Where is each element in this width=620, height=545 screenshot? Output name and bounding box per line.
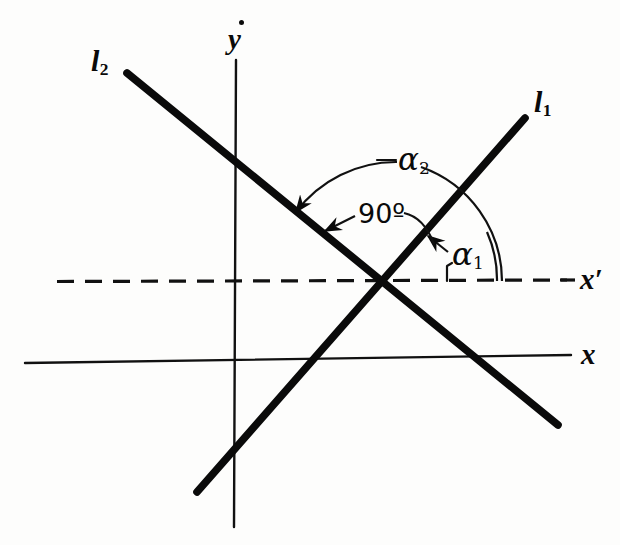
label-line-l2-sub: 2 — [100, 59, 109, 79]
label-y-axis-text: y — [228, 23, 241, 55]
label-alpha1: α1 — [452, 239, 484, 272]
label-line-l2-base: l — [91, 44, 99, 77]
label-line-l1-base: l — [534, 85, 542, 118]
label-right-angle-text: 90º — [358, 198, 405, 229]
label-x-axis-text: x — [581, 338, 596, 370]
right-angle-arrow-left — [325, 216, 355, 231]
figure-canvas — [0, 0, 620, 545]
y-axis-overdot-icon — [239, 20, 244, 25]
label-right-angle: 90º — [358, 200, 405, 227]
y-axis — [234, 60, 236, 527]
label-x-prime-axis: x′ — [580, 265, 603, 294]
label-line-l1: l1 — [534, 87, 552, 119]
geometry-figure: l2 l1 y x x′ α2 α1 90º — [0, 0, 620, 545]
x-axis — [25, 355, 571, 363]
label-alpha1-sub: 1 — [473, 253, 484, 273]
x-prime-axis — [57, 280, 567, 282]
label-y-axis: y — [228, 25, 241, 54]
label-line-l1-sub: 1 — [543, 100, 552, 120]
label-alpha1-base: α — [452, 236, 473, 272]
label-x-axis: x — [581, 340, 596, 369]
label-alpha2: α2 — [398, 144, 430, 177]
label-alpha2-sub: 2 — [419, 158, 430, 178]
label-line-l2: l2 — [91, 46, 109, 78]
label-x-prime-axis-text: x′ — [580, 263, 603, 295]
label-alpha2-base: α — [398, 141, 419, 177]
